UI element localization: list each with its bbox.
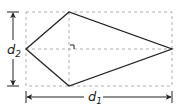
d2-label: d2: [7, 42, 21, 59]
kite-diagram: d2 d1: [0, 0, 178, 111]
right-angle-marker: [70, 45, 74, 49]
d1-label: d1: [88, 89, 102, 106]
